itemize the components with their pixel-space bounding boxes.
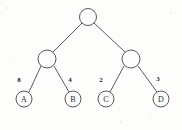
edge-weight-label-a: 8 xyxy=(17,76,21,84)
edge-root-to-right-internal xyxy=(94,23,125,52)
tree-graphic: 8 4 2 3 A B C D xyxy=(0,0,182,130)
node-leaf-c-label: C xyxy=(103,95,108,104)
edge-left-internal-to-leaf-b xyxy=(54,66,69,92)
edge-left-internal-to-leaf-a xyxy=(29,66,41,92)
node-leaf-a-label: A xyxy=(21,95,27,104)
node-left-internal xyxy=(38,50,56,68)
node-leaf-d-label: D xyxy=(158,95,164,104)
edge-right-internal-to-leaf-d xyxy=(138,66,157,92)
edge-weight-label-c: 2 xyxy=(99,76,103,84)
edge-root-to-left-internal xyxy=(53,23,82,52)
node-leaf-b-label: B xyxy=(70,95,75,104)
edge-right-internal-to-leaf-c xyxy=(110,66,124,92)
edge-weight-labels-group: 8 4 2 3 xyxy=(17,75,160,84)
tree-nodes-group: A B C D xyxy=(16,9,169,108)
node-right-internal xyxy=(122,50,140,68)
binary-tree-diagram: 8 4 2 3 A B C D xyxy=(0,0,182,130)
edge-weight-label-d: 3 xyxy=(156,75,160,83)
node-root xyxy=(80,9,97,26)
edge-weight-label-b: 4 xyxy=(68,76,72,84)
